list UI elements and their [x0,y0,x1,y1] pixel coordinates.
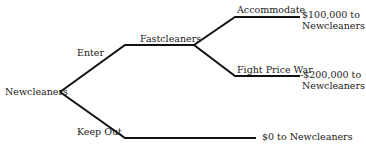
enter-branch-label: Enter [77,47,104,58]
accommodate-branch-line [194,17,300,45]
accommodate-payoff: $100,000 to Newcleaners [302,10,365,31]
fight-payoff-line2: Newcleaners [300,81,365,92]
accommodate-payoff-line2: Newcleaners [302,21,365,32]
keep-out-payoff: $0 to Newcleaners [262,132,353,143]
fight-payoff-line1: -$200,000 to [300,70,365,81]
accommodate-payoff-line1: $100,000 to [302,10,365,21]
accommodate-branch-label: Accommodate [237,4,305,15]
fight-payoff: -$200,000 to Newcleaners [300,70,365,91]
keep-out-branch-label: Keep Out [77,126,122,137]
root-player-label: Newcleaners [5,86,68,97]
fastcleaners-node-label: Fastcleaners [140,33,201,44]
